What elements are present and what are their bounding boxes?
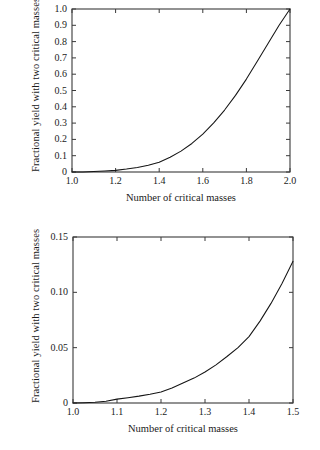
x-tick-label-top: 2.0 (270, 176, 310, 186)
y-tick-label-top: 1.0 (30, 4, 67, 14)
data-curve-bottom (73, 261, 293, 403)
y-tick-label-top: 0.7 (30, 53, 67, 63)
x-tick-label-top: 1.6 (183, 176, 223, 186)
y-tick-label-top: 0.1 (30, 151, 67, 161)
y-tick-label-top: 0.5 (30, 86, 67, 96)
y-tick-label-top: 0 (30, 167, 67, 177)
x-tick-label-bottom: 1.2 (141, 407, 181, 417)
x-tick-label-bottom: 1.3 (185, 407, 225, 417)
y-tick-label-bottom: 0 (31, 398, 68, 408)
y-tick-label-bottom: 0.15 (31, 232, 68, 242)
y-tick-label-top: 0.8 (30, 37, 67, 47)
y-tick-label-top: 0.4 (30, 102, 67, 112)
x-axis-title-top: Number of critical masses (21, 192, 320, 203)
y-tick-label-top: 0.6 (30, 69, 67, 79)
x-tick-label-bottom: 1.4 (229, 407, 269, 417)
x-axis-title-bottom: Number of critical masses (23, 423, 320, 434)
x-tick-label-top: 1.2 (96, 176, 136, 186)
data-curve-top (72, 9, 290, 172)
chart-top: Fractional yield with two critical masse… (0, 0, 320, 215)
x-tick-label-bottom: 1.1 (97, 407, 137, 417)
x-tick-label-top: 1.0 (52, 176, 92, 186)
y-axis-title-bottom: Fractional yield with two critical masse… (30, 237, 41, 403)
chart-bottom: Fractional yield with two critical masse… (0, 225, 320, 450)
y-tick-label-top: 0.9 (30, 20, 67, 30)
x-tick-label-bottom: 1.5 (273, 407, 313, 417)
y-tick-label-bottom: 0.10 (31, 287, 68, 297)
x-tick-label-top: 1.4 (139, 176, 179, 186)
y-tick-label-bottom: 0.05 (31, 343, 68, 353)
x-tick-label-top: 1.8 (226, 176, 266, 186)
y-tick-label-top: 0.2 (30, 134, 67, 144)
x-tick-label-bottom: 1.0 (53, 407, 93, 417)
y-tick-label-top: 0.3 (30, 118, 67, 128)
